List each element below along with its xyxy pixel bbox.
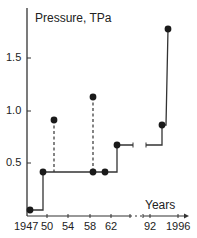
data-point-1947	[27, 207, 34, 214]
data-point-1951-claim	[51, 117, 58, 124]
x-tick-label-1947: 1947	[14, 221, 38, 232]
x-axis-arrow	[184, 214, 189, 219]
data-point-1958-claim	[90, 94, 97, 101]
x-tick-label-62: 62	[105, 221, 117, 232]
x-tick-label-54: 54	[62, 221, 74, 232]
x-tick-label-58: 58	[84, 221, 96, 232]
x-tick-label-50: 50	[41, 221, 53, 232]
step-line	[30, 145, 133, 210]
y-tick-label-1-0: 1.0	[6, 105, 21, 116]
x-tick-label-92: 92	[144, 221, 156, 232]
data-point-1962	[114, 142, 121, 149]
data-point-1960	[102, 169, 109, 176]
data-point-1993	[159, 122, 166, 129]
x-axis-title: Years	[145, 200, 175, 211]
y-tick-label-1-5: 1.5	[6, 52, 21, 63]
data-point-1949	[40, 169, 47, 176]
data-point-1994	[165, 26, 172, 33]
x-tick-label-1996: 1996	[166, 221, 190, 232]
data-point-1958	[90, 169, 97, 176]
y-axis-title: Pressure, TPa	[35, 13, 111, 24]
y-tick-label-0-5: 0.5	[6, 157, 21, 168]
pressure-history-chart: Pressure, TPa 1.5 1.0 0.5 Years 1947 50 …	[0, 0, 197, 238]
step-line	[146, 29, 168, 145]
